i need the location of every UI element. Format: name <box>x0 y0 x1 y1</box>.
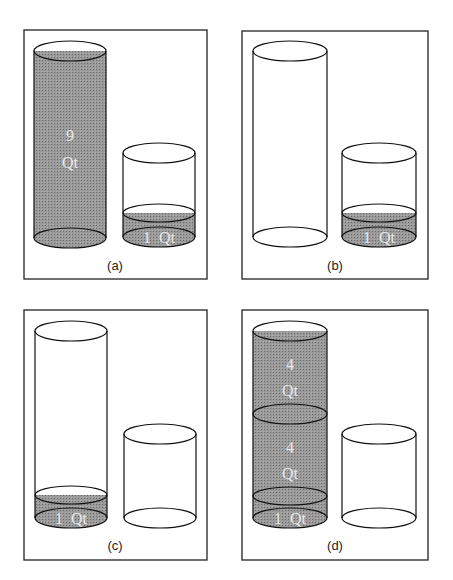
volume-label: 9 <box>66 127 74 144</box>
unit-label: Qt <box>282 465 299 482</box>
panel-b: 1 Qt (b) <box>242 31 428 279</box>
unit-label: Qt <box>282 382 299 399</box>
panel-caption: (a) <box>107 258 123 273</box>
tall-cylinder: 4 Qt 4 Qt 1 Qt <box>253 321 327 528</box>
volume-label: 1 Qt <box>143 229 176 246</box>
volume-label: 1 Qt <box>274 510 307 527</box>
panel-caption: (d) <box>327 538 343 553</box>
panel-c: 1 Qt (c) <box>24 310 207 560</box>
tall-cylinder: 9 Qt <box>34 41 106 248</box>
panel-d: 4 Qt 4 Qt 1 Qt (d) <box>242 310 428 560</box>
volume-label: 4 <box>286 356 294 373</box>
panel-caption: (c) <box>107 538 122 553</box>
volume-label: 1 Qt <box>55 510 88 527</box>
panel-a: 9 Qt 1 Qt (a) <box>24 30 207 279</box>
volume-label: 1 Qt <box>363 229 396 246</box>
cylinder-diagram: 9 Qt 1 Qt (a) <box>0 0 453 580</box>
volume-label: 4 <box>286 439 294 456</box>
unit-label: Qt <box>62 154 79 171</box>
panel-caption: (b) <box>327 258 343 273</box>
